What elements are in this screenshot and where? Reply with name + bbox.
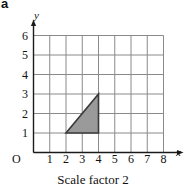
x-tick-label: 5 [109, 153, 121, 165]
axes-group [31, 20, 184, 156]
x-tick-label: 3 [76, 153, 88, 165]
origin-label: O [12, 153, 21, 165]
y-tick-label: 5 [16, 49, 28, 61]
y-axis-label: y [34, 10, 39, 21]
x-tick-label: 6 [125, 153, 137, 165]
x-tick-label: 7 [141, 153, 153, 165]
coordinate-grid-figure: a y x O 12345678 123456 Scale factor 2 [0, 0, 186, 194]
y-tick-label: 4 [16, 69, 28, 81]
x-tick-label: 4 [93, 153, 105, 165]
y-tick-label: 2 [16, 108, 28, 120]
y-tick-label: 3 [16, 88, 28, 100]
y-tick-label: 6 [16, 30, 28, 42]
x-tick-label: 8 [158, 153, 170, 165]
figure-caption: Scale factor 2 [0, 172, 186, 188]
x-axis-label: x [176, 147, 181, 158]
y-tick-label: 1 [16, 127, 28, 139]
x-tick-label: 1 [44, 153, 56, 165]
x-tick-label: 2 [60, 153, 72, 165]
